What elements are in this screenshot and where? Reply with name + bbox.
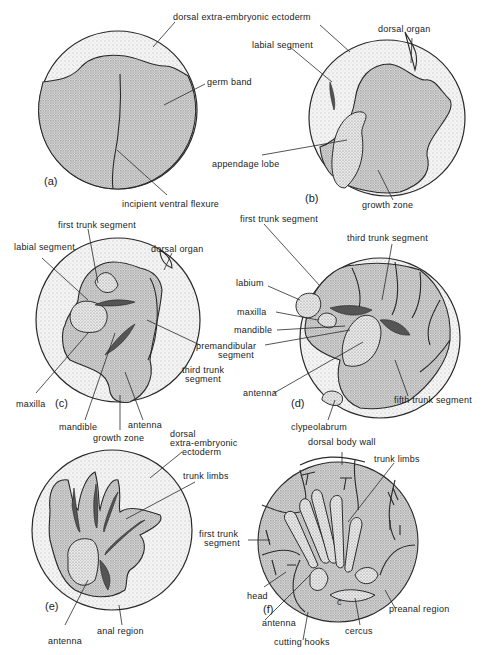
panel-b: labial segment dorsal organ appendage lo… bbox=[212, 24, 465, 210]
panel-label-f: (f) bbox=[263, 603, 273, 615]
label-anal-region: anal region bbox=[97, 626, 144, 636]
label-first-trunk-segment-2: segment bbox=[204, 538, 240, 548]
label-labium: labium bbox=[236, 278, 264, 288]
panel-label-d: (d) bbox=[291, 397, 304, 409]
label-trunk-limbs: trunk limbs bbox=[183, 471, 229, 481]
label-fifth-trunk-segment: fifth trunk segment bbox=[394, 395, 472, 405]
cercus-mark: c bbox=[337, 597, 342, 607]
label-labial-segment: labial segment bbox=[252, 40, 313, 50]
label-clypeolabrum: clypeolabrum bbox=[291, 422, 347, 432]
panel-label-c: (c) bbox=[55, 397, 68, 409]
label-dorsal-organ: dorsal organ bbox=[378, 24, 430, 34]
label-first-trunk-segment: first trunk segment bbox=[58, 220, 136, 230]
label-third-trunk-segment: third trunk segment bbox=[347, 233, 428, 243]
label-ectoderm: ectoderm bbox=[182, 447, 221, 457]
clypeolabrum-shape bbox=[322, 391, 343, 405]
label-trunk-limbs: trunk limbs bbox=[374, 454, 420, 464]
label-antenna: antenna bbox=[48, 636, 82, 646]
label-maxilla: maxilla bbox=[16, 399, 45, 409]
panel-c: first trunk segment labial segment dorsa… bbox=[14, 220, 225, 443]
panel-label-a: (a) bbox=[44, 175, 57, 187]
panel-label-e: (e) bbox=[45, 600, 58, 612]
label-first-trunk-segment: first trunk segment bbox=[240, 214, 318, 224]
label-premandibular-segment-2: segment bbox=[218, 350, 254, 360]
label-dorsal-extra-embryonic-ectoderm: dorsal extra-embryonic ectoderm bbox=[173, 12, 311, 22]
label-cutting-hooks: cutting hooks bbox=[274, 637, 330, 647]
panel-f: c dorsal body wall trunk limbs first tru… bbox=[199, 437, 449, 647]
label-preanal-region: preanal region bbox=[389, 604, 449, 614]
label-germ-band: germ band bbox=[207, 77, 252, 87]
panel-d: first trunk segment third trunk segment … bbox=[196, 214, 472, 432]
antenna-shape bbox=[68, 539, 99, 586]
label-mandible: mandible bbox=[234, 325, 272, 335]
label-antenna: antenna bbox=[128, 420, 162, 430]
embryo-development-figure: dorsal extra-embryonic ectoderm germ ban… bbox=[0, 0, 487, 655]
label-cercus: cercus bbox=[345, 626, 373, 636]
label-appendage-lobe: appendage lobe bbox=[212, 159, 279, 169]
label-maxilla: maxilla bbox=[237, 307, 266, 317]
label-head: head bbox=[247, 591, 268, 601]
label-dorsal-body-wall: dorsal body wall bbox=[308, 437, 376, 447]
panel-label-b: (b) bbox=[305, 192, 318, 204]
label-third-trunk-segment-2: segment bbox=[185, 374, 221, 384]
label-growth-zone: growth zone bbox=[362, 200, 413, 210]
label-antenna: antenna bbox=[243, 388, 277, 398]
label-dorsal-organ: dorsal organ bbox=[151, 244, 203, 254]
label-labial-segment: labial segment bbox=[14, 242, 75, 252]
label-antenna: antenna bbox=[262, 618, 296, 628]
label-mandible: mandible bbox=[59, 422, 97, 432]
label-growth-zone: growth zone bbox=[93, 433, 144, 443]
label-incipient-ventral-flexure: incipient ventral flexure bbox=[122, 199, 219, 209]
